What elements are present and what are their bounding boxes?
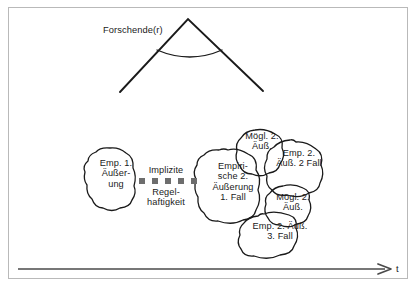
regularity-dot <box>152 178 158 184</box>
diagram-figure: Forschende(r) Implizite Regel- haftigkei… <box>0 0 419 293</box>
blob-label-empirische-2-aeusserung-1-fall: Empiri- sche 2. Äußerung 1. Fall <box>203 161 263 202</box>
time-axis-arrow <box>18 264 391 274</box>
researcher-label: Forschende(r) <box>103 25 195 35</box>
axis-label-t: t <box>396 264 408 274</box>
blob-label-emp-1-aeusserung: Emp. 1. Äußer- ung <box>90 158 142 189</box>
blob-label-emp-2-aeuss-2-fall: Emp. 2. Äuß. 2 Fall <box>268 148 330 169</box>
cone-angle-arc-icon <box>157 50 222 57</box>
regularity-dot <box>165 178 171 184</box>
implicit-regularity-label-bottom: Regel- haftigkeit <box>131 187 201 208</box>
regularity-dot <box>191 178 197 184</box>
blob-label-emp-2-aeuss-3-fall: Emp. 2. Äuß. 3. Fall <box>245 221 315 242</box>
regularity-dot <box>178 178 184 184</box>
diagram-canvas <box>0 0 419 293</box>
blob-label-moegl-2-aeuss-b: Mögl. 2. Äuß. <box>269 192 317 213</box>
implicit-regularity-label-top: Implizite <box>133 165 199 175</box>
